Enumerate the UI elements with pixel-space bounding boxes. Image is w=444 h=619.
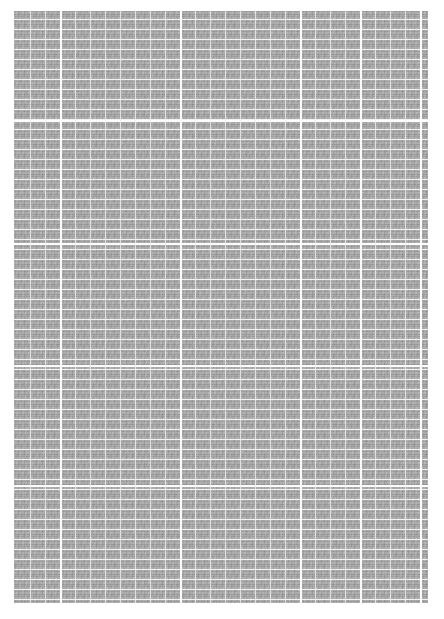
table-column-rule — [210, 9, 211, 605]
table-row-rule — [12, 579, 430, 580]
table-column-divider — [300, 9, 302, 605]
table-row-rule — [12, 129, 430, 130]
table-row-rule — [12, 279, 430, 280]
table-row-rule — [12, 219, 430, 220]
table-row-rule — [12, 499, 430, 500]
table-row-rule — [12, 519, 430, 520]
table-column-rule — [150, 9, 151, 605]
table-row-rule — [12, 169, 430, 170]
table-column-rule — [195, 9, 196, 605]
table-row-rule — [12, 409, 430, 410]
table-row-rule — [12, 589, 430, 590]
table-caption — [14, 606, 244, 608]
scan-noise-texture — [12, 9, 430, 605]
table-row-rule — [12, 379, 430, 380]
table-row-rule — [12, 209, 430, 210]
table-row-rule — [12, 149, 430, 150]
table-column-rule — [165, 9, 166, 605]
table-row-rule — [12, 29, 430, 30]
table-row-rule — [12, 339, 430, 340]
table-row-rule — [12, 299, 430, 300]
table-row-rule — [12, 459, 430, 460]
table-row-rule — [12, 389, 430, 390]
table-column-rule — [270, 9, 271, 605]
table-text-texture — [12, 9, 430, 605]
table-row-rule — [12, 39, 430, 40]
table-row-rule — [12, 509, 430, 510]
table-row-rule — [12, 319, 430, 320]
table-row-rule — [12, 439, 430, 440]
table-section-divider — [12, 365, 430, 367]
table-row-rule — [12, 49, 430, 50]
table-row-rules — [12, 9, 430, 605]
table-column-rules — [12, 9, 430, 605]
table-row-rule — [12, 89, 430, 90]
table-column-rule — [240, 9, 241, 605]
table-column-divider — [60, 9, 62, 605]
table-column-rule — [90, 9, 91, 605]
table-row-rule — [12, 529, 430, 530]
table-section-divider — [12, 120, 430, 122]
table-row-rule — [12, 549, 430, 550]
table-row-rule — [12, 229, 430, 230]
table-row-rule — [12, 239, 430, 240]
table-row-rule — [12, 399, 430, 400]
table-column-rule — [345, 9, 346, 605]
table-column-rule — [45, 9, 46, 605]
table-column-rule — [405, 9, 406, 605]
table-row-rule — [12, 329, 430, 330]
table-row-rule — [12, 599, 430, 600]
table-column-rule — [315, 9, 316, 605]
table-column-divider — [420, 9, 422, 605]
table-row-rule — [12, 109, 430, 110]
table-column-rule — [330, 9, 331, 605]
table-column-divider — [360, 9, 362, 605]
table-row-rule — [12, 559, 430, 560]
table-row-rule — [12, 249, 430, 250]
table-row-rule — [12, 159, 430, 160]
table-column-rule — [255, 9, 256, 605]
table-row-rule — [12, 59, 430, 60]
page-canvas — [0, 0, 444, 619]
table-column-divider — [180, 9, 182, 605]
table-column-texture — [12, 9, 430, 605]
table-row-rule — [12, 139, 430, 140]
table-row-rule — [12, 349, 430, 350]
table-row-rule — [12, 189, 430, 190]
table-row-rule — [12, 449, 430, 450]
table-row-rule — [12, 179, 430, 180]
table-column-rule — [105, 9, 106, 605]
table-row-rule — [12, 359, 430, 360]
table-column-rule — [135, 9, 136, 605]
table-column-rule — [375, 9, 376, 605]
table-section-divider — [12, 485, 430, 487]
table-row-rule — [12, 289, 430, 290]
data-table[interactable] — [12, 9, 430, 605]
table-row-rule — [12, 79, 430, 80]
table-row-rule — [12, 429, 430, 430]
table-column-rule — [75, 9, 76, 605]
table-row-rule — [12, 419, 430, 420]
table-row-rule — [12, 569, 430, 570]
table-row-rule — [12, 469, 430, 470]
table-row-rule — [12, 119, 430, 120]
table-row-rule — [12, 369, 430, 370]
table-column-rule — [225, 9, 226, 605]
table-row-rule — [12, 269, 430, 270]
table-column-rule — [285, 9, 286, 605]
table-row-rule — [12, 479, 430, 480]
table-row-rule — [12, 99, 430, 100]
table-row-rule — [12, 309, 430, 310]
table-row-rule — [12, 199, 430, 200]
table-row-rule — [12, 69, 430, 70]
table-row-rule — [12, 19, 430, 20]
table-column-rule — [30, 9, 31, 605]
table-section-divider — [12, 243, 430, 245]
table-row-rule — [12, 539, 430, 540]
table-row-rule — [12, 489, 430, 490]
table-row-rule — [12, 259, 430, 260]
table-column-rule — [120, 9, 121, 605]
table-column-rule — [390, 9, 391, 605]
